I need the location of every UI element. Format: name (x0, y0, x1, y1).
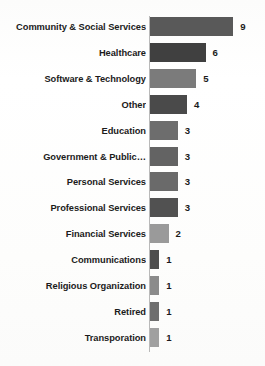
bar-value-label: 3 (185, 169, 190, 195)
bar-value-label: 1 (166, 299, 171, 325)
bar-row: Communications1 (0, 247, 265, 273)
bar (150, 69, 196, 88)
bar (150, 328, 159, 347)
bar-row: Professional Services3 (0, 195, 265, 221)
bar-row: Personal Services3 (0, 169, 265, 195)
bar-chart: Community & Social Services9Healthcare6S… (0, 0, 265, 366)
bar (150, 224, 169, 243)
bar-value-label: 4 (194, 92, 199, 118)
category-label: Healthcare (4, 40, 146, 66)
category-label: Government & Public… (4, 144, 146, 170)
bar (150, 17, 233, 36)
bar-value-label: 1 (166, 247, 171, 273)
bar-value-label: 1 (166, 273, 171, 299)
category-label: Financial Services (4, 221, 146, 247)
bar (150, 147, 178, 166)
category-label: Personal Services (4, 169, 146, 195)
bar (150, 172, 178, 191)
category-label: Transporation (4, 325, 146, 351)
bar-value-label: 6 (213, 40, 218, 66)
bar-row: Religious Organization1 (0, 273, 265, 299)
bar (150, 250, 159, 269)
bar (150, 276, 159, 295)
bar-row: Transporation1 (0, 325, 265, 351)
bar-row: Community & Social Services9 (0, 14, 265, 40)
bar-value-label: 1 (166, 325, 171, 351)
bar-row: Education3 (0, 118, 265, 144)
category-label: Communications (4, 247, 146, 273)
bar-value-label: 3 (185, 195, 190, 221)
bar (150, 121, 178, 140)
category-label: Religious Organization (4, 273, 146, 299)
bar-value-label: 9 (240, 14, 245, 40)
category-label: Retired (4, 299, 146, 325)
bar-value-label: 3 (185, 144, 190, 170)
category-label: Software & Technology (4, 66, 146, 92)
bar (150, 43, 206, 62)
category-label: Community & Social Services (4, 14, 146, 40)
bar-value-label: 3 (185, 118, 190, 144)
bar-row: Financial Services2 (0, 221, 265, 247)
bar (150, 95, 187, 114)
bar (150, 198, 178, 217)
bar-row: Government & Public…3 (0, 144, 265, 170)
plot-area: Community & Social Services9Healthcare6S… (0, 0, 265, 366)
category-label: Professional Services (4, 195, 146, 221)
bar-row: Retired1 (0, 299, 265, 325)
bar-value-label: 2 (176, 221, 181, 247)
bar-row: Other4 (0, 92, 265, 118)
bar-row: Healthcare6 (0, 40, 265, 66)
category-label: Other (4, 92, 146, 118)
category-label: Education (4, 118, 146, 144)
bar (150, 302, 159, 321)
bar-value-label: 5 (203, 66, 208, 92)
bar-row: Software & Technology5 (0, 66, 265, 92)
